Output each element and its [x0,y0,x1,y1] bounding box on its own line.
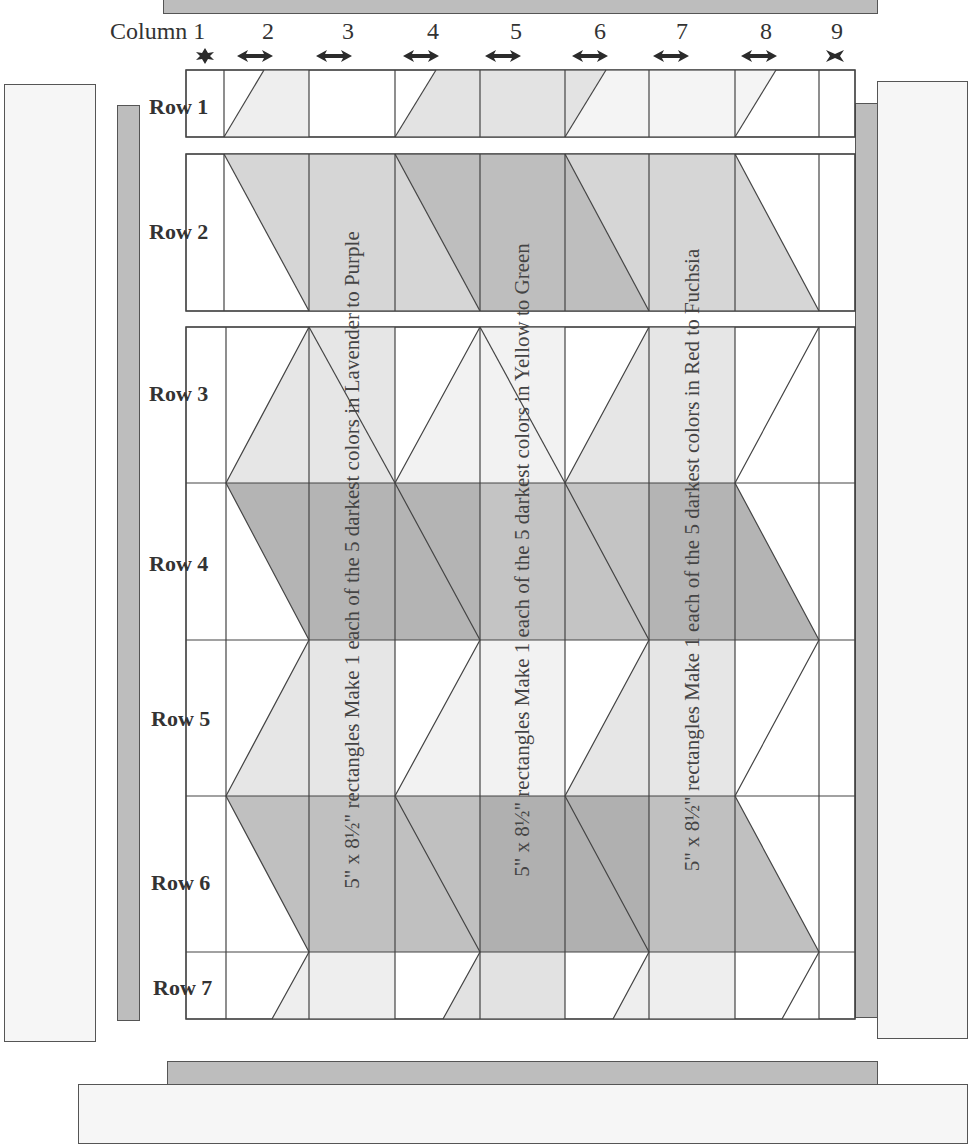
row-1-blocks [186,70,855,137]
row-label-2: Row 2 [149,219,208,245]
instruction-red-to-fuchsia: 5" x 8½" rectangles Make 1 each of the 5… [680,249,705,871]
instruction-yellow-to-green: 5" x 8½" rectangles Make 1 each of the 5… [510,243,535,877]
row-label-6: Row 6 [151,870,210,896]
row-label-7: Row 7 [153,975,212,1001]
row-label-1: Row 1 [149,94,208,120]
row-label-3: Row 3 [149,381,208,407]
row-label-4: Row 4 [149,551,208,577]
row-label-5: Row 5 [151,706,210,732]
instruction-lavender-to-purple: 5" x 8½" rectangles Make 1 each of the 5… [340,231,365,888]
